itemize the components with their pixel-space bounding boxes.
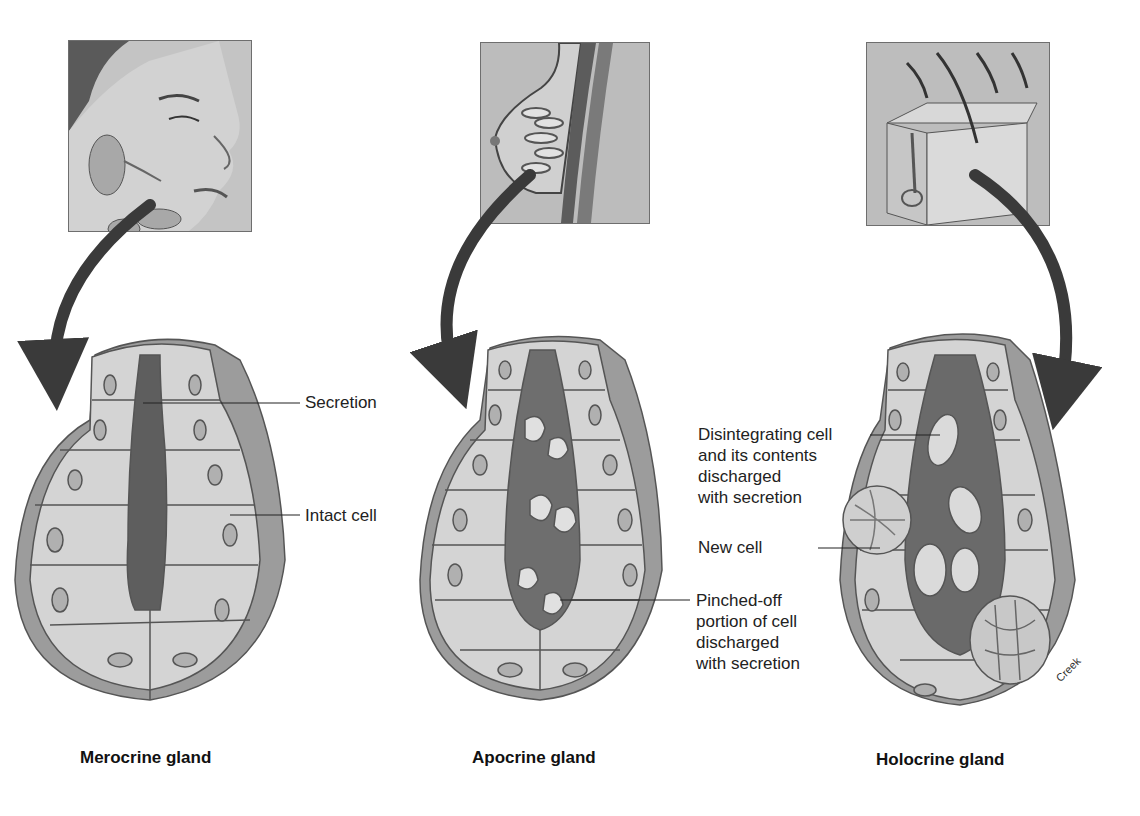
gland-diagram [0,0,1140,816]
label-secretion: Secretion [305,392,377,413]
label-line: and its contents [698,445,832,466]
caption-merocrine: Merocrine gland [80,748,211,768]
caption-holocrine: Holocrine gland [876,750,1004,770]
label-intact-cell: Intact cell [305,505,377,526]
label-line: Pinched-off [696,590,800,611]
caption-apocrine: Apocrine gland [472,748,596,768]
label-disintegrating-cell: Disintegrating cell and its contents dis… [698,424,832,508]
label-line: with secretion [696,653,800,674]
label-new-cell: New cell [698,537,762,558]
label-line: with secretion [698,487,832,508]
label-line: portion of cell [696,611,800,632]
holocrine-gland [840,334,1075,705]
label-line: Disintegrating cell [698,424,832,445]
apocrine-gland [420,336,662,700]
merocrine-gland [15,339,285,700]
label-line: discharged [696,632,800,653]
label-pinched-off-portion: Pinched-off portion of cell discharged w… [696,590,800,674]
label-line: discharged [698,466,832,487]
